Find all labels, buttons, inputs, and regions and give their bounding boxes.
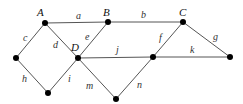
edge-c	[16, 23, 45, 58]
edge-h	[16, 58, 48, 93]
vertex-h	[45, 90, 51, 96]
edge-label-g: g	[213, 31, 218, 42]
vertex-D	[75, 55, 81, 61]
vertex-C	[180, 19, 186, 25]
edge-e	[78, 22, 108, 58]
edge-j	[78, 57, 153, 58]
vertex-label-D: D	[70, 41, 79, 53]
labels-layer: abcdefghijkmnABCD	[22, 6, 218, 91]
edge-label-b: b	[141, 9, 146, 20]
edge-label-a: a	[76, 10, 81, 21]
nodes-layer	[13, 19, 233, 102]
edge-label-e: e	[85, 31, 90, 42]
vertex-A	[42, 20, 48, 26]
edge-label-m: m	[86, 80, 93, 91]
edge-label-f: f	[159, 32, 163, 43]
vertex-label-A: A	[36, 6, 44, 18]
vertex-f	[227, 54, 233, 60]
edges-layer	[16, 22, 230, 99]
vertex-i	[113, 96, 119, 102]
vertex-B	[105, 19, 111, 25]
edge-label-d: d	[53, 39, 59, 50]
vertex-label-B: B	[103, 6, 110, 18]
edge-i	[48, 58, 78, 93]
edge-label-i: i	[68, 73, 71, 84]
edge-n	[116, 57, 153, 99]
edge-label-j: j	[114, 44, 119, 55]
graph-diagram: abcdefghijkmnABCD	[0, 0, 243, 104]
edge-label-c: c	[23, 32, 28, 43]
edge-label-h: h	[22, 73, 27, 84]
edge-a	[45, 22, 108, 23]
vertex-e	[150, 54, 156, 60]
edge-m	[78, 58, 116, 99]
vertex-g	[13, 55, 19, 61]
edge-label-k: k	[190, 44, 195, 55]
vertex-label-C: C	[179, 6, 187, 18]
edge-label-n: n	[137, 79, 142, 90]
edge-f	[153, 22, 183, 57]
